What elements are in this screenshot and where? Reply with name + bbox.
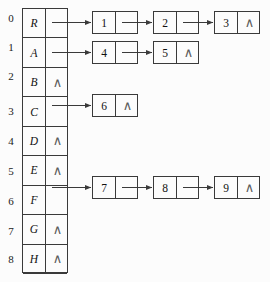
bucket-pointer-F [46, 186, 69, 214]
nil-icon: ∧ [245, 181, 255, 194]
chain-node-next-9: ∧ [238, 177, 261, 198]
nil-icon: ∧ [53, 76, 63, 89]
nil-icon: ∧ [184, 46, 194, 59]
nil-icon: ∧ [245, 16, 255, 29]
chain-node-next-5: ∧ [177, 42, 200, 63]
bucket-pointer-D: ∧ [46, 127, 69, 155]
chain-node-value-2: 2 [154, 12, 177, 33]
index-label-4: 4 [4, 135, 18, 147]
bucket-pointer-C [46, 97, 69, 125]
index-label-7: 7 [4, 225, 18, 237]
bucket-row-E: E ∧ [23, 156, 67, 185]
bucket-pointer-E: ∧ [46, 156, 69, 184]
bucket-key-F: F [23, 186, 46, 214]
chain-node-value-4: 4 [93, 42, 116, 63]
bucket-row-G: G ∧ [23, 215, 67, 244]
chain-node-7: 7 [92, 176, 138, 199]
chain-node-next-2 [177, 12, 200, 33]
hash-table-chaining-diagram: 0 1 2 3 4 5 6 7 8 R A B ∧ C D ∧ E ∧ [0, 0, 270, 282]
bucket-pointer-R [46, 9, 69, 37]
index-label-6: 6 [4, 195, 18, 207]
bucket-key-C: C [23, 97, 46, 125]
index-label-3: 3 [4, 105, 18, 117]
index-label-8: 8 [4, 253, 18, 265]
bucket-row-H: H ∧ [23, 245, 67, 274]
bucket-pointer-H: ∧ [46, 245, 69, 273]
chain-node-value-7: 7 [93, 177, 116, 198]
bucket-row-D: D ∧ [23, 127, 67, 156]
chain-node-value-5: 5 [154, 42, 177, 63]
bucket-table: R A B ∧ C D ∧ E ∧ F G ∧ [22, 8, 68, 273]
bucket-row-A: A [23, 38, 67, 67]
bucket-pointer-A [46, 38, 69, 66]
chain-node-next-7 [116, 177, 139, 198]
bucket-row-C: C [23, 97, 67, 126]
bucket-key-G: G [23, 215, 46, 243]
bucket-key-H: H [23, 245, 46, 273]
nil-icon: ∧ [53, 252, 63, 265]
chain-node-next-1 [116, 12, 139, 33]
index-label-5: 5 [4, 165, 18, 177]
index-label-1: 1 [4, 41, 18, 53]
nil-icon: ∧ [53, 134, 63, 147]
chain-node-value-3: 3 [215, 12, 238, 33]
chain-node-5: 5 ∧ [153, 41, 199, 64]
chain-node-1: 1 [92, 11, 138, 34]
chain-node-value-8: 8 [154, 177, 177, 198]
bucket-pointer-G: ∧ [46, 215, 69, 243]
chain-node-4: 4 [92, 41, 138, 64]
nil-icon: ∧ [53, 223, 63, 236]
chain-node-next-3: ∧ [238, 12, 261, 33]
chain-node-9: 9 ∧ [214, 176, 260, 199]
chain-node-next-6: ∧ [116, 95, 139, 116]
index-label-2: 2 [4, 70, 18, 82]
bucket-key-B: B [23, 68, 46, 96]
bucket-key-R: R [23, 9, 46, 37]
bucket-key-D: D [23, 127, 46, 155]
chain-node-next-8 [177, 177, 200, 198]
bucket-key-E: E [23, 156, 46, 184]
chain-node-value-1: 1 [93, 12, 116, 33]
chain-node-value-6: 6 [93, 95, 116, 116]
bucket-row-F: F [23, 186, 67, 215]
bucket-pointer-B: ∧ [46, 68, 69, 96]
chain-node-8: 8 [153, 176, 199, 199]
nil-icon: ∧ [53, 164, 63, 177]
chain-node-next-4 [116, 42, 139, 63]
chain-node-value-9: 9 [215, 177, 238, 198]
bucket-row-R: R [23, 9, 67, 38]
index-label-0: 0 [4, 12, 18, 24]
chain-node-3: 3 ∧ [214, 11, 260, 34]
bucket-row-B: B ∧ [23, 68, 67, 97]
nil-icon: ∧ [123, 99, 133, 112]
chain-node-6: 6 ∧ [92, 94, 138, 117]
chain-node-2: 2 [153, 11, 199, 34]
bucket-key-A: A [23, 38, 46, 66]
